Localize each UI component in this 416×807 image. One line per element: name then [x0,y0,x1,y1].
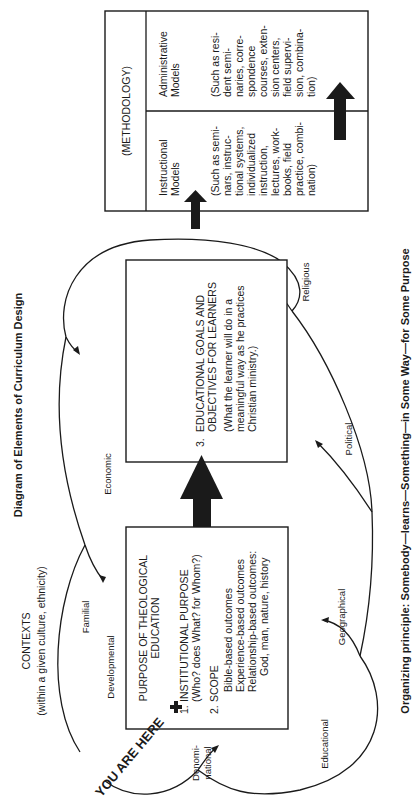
svg-text:Relationship-based outcomes:: Relationship-based outcomes: [246,551,258,692]
svg-text:spondence: spondence [245,45,257,97]
context-label-economic: Economic [102,453,113,495]
svg-text:tional systems,: tional systems, [233,127,245,196]
svg-text:nars, instruc-: nars, instruc- [221,135,233,196]
svg-text:God, man, nature, history: God, man, nature, history [258,557,270,676]
svg-text:tion): tion) [305,77,317,97]
svg-text:books, field: books, field [281,143,293,196]
svg-text:national: national [202,746,213,779]
svg-text:Models: Models [169,162,181,196]
svg-text:INSTITUTIONAL PURPOSE: INSTITUTIONAL PURPOSE [178,569,190,702]
svg-text:(Such as semi-: (Such as semi- [209,125,221,196]
svg-text:Models: Models [169,63,181,97]
svg-text:practice, combi-: practice, combi- [293,121,305,196]
svg-text:dent semi-: dent semi- [221,47,233,97]
educational-goals-box: 3. EDUCATIONAL GOALS AND OBJECTIVES FOR … [126,260,287,462]
context-label-political: Political [343,423,354,456]
svg-text:3.: 3. [194,438,206,447]
svg-text:(Who? does What? for Whom?): (Who? does What? for Whom?) [190,554,202,702]
context-label-familial: Familial [80,601,91,634]
svg-text:courses, exten-: courses, exten- [257,25,269,97]
svg-text:instruction,: instruction, [257,145,269,196]
purpose-box: PURPOSE OF THEOLOGICAL EDUCATION 1. INST… [126,527,288,729]
svg-text:PURPOSE OF THEOLOGICAL: PURPOSE OF THEOLOGICAL [137,555,149,701]
svg-text:EDUCATIONAL GOALS AND: EDUCATIONAL GOALS AND [194,294,206,432]
curriculum-design-diagram: Diagram of Elements of Curriculum Design… [0,0,416,807]
svg-text:Denomi-: Denomi- [190,745,201,781]
svg-text:OBJECTIVES FOR LEARNERS: OBJECTIVES FOR LEARNERS [206,282,218,432]
svg-text:Christian ministry.): Christian ministry.) [246,346,258,432]
context-label-geographical: Geographical [336,589,347,646]
svg-text:Bible-based outcomes: Bible-based outcomes [222,588,234,692]
svg-text:Instructional: Instructional [157,139,169,196]
svg-text:Experience-based outcomes: Experience-based outcomes [234,559,246,692]
organizing-principle: Organizing principle: Somebody—learns—So… [399,248,411,713]
svg-text:CONTEXTS: CONTEXTS [20,612,32,669]
svg-text:(Such as resi-: (Such as resi- [209,32,221,97]
arrow-purpose-to-goals-icon [180,455,223,533]
svg-text:EDUCATION: EDUCATION [149,597,161,658]
context-label-developmental: Developmental [105,635,116,698]
methodology-box: (METHODOLOGY) Instructional Models (Such… [105,11,368,211]
methodology-heading: (METHODOLOGY) [120,66,132,156]
svg-text:SCOPE: SCOPE [208,665,220,702]
diagram-title: Diagram of Elements of Curriculum Design [12,293,24,518]
context-label-religious: Religious [300,262,311,301]
svg-text:Administrative: Administrative [157,31,169,97]
svg-text:naries, corre-: naries, corre- [233,35,245,97]
context-label-denominational: Denomi- national [190,745,213,781]
svg-text:(within a given culture, ethni: (within a given culture, ethnicity) [35,566,47,715]
contexts-heading: CONTEXTS (within a given culture, ethnic… [20,566,47,715]
context-label-educational: Educational [319,719,330,769]
svg-text:2.: 2. [208,705,220,714]
svg-text:meaningful way as he practices: meaningful way as he practices [234,286,246,433]
svg-text:lectures, work-: lectures, work- [269,127,281,196]
svg-text:field supervi-: field supervi- [281,37,293,97]
svg-text:individualized: individualized [245,133,257,196]
svg-text:nation): nation) [305,164,317,196]
svg-text:sion centers,: sion centers, [269,37,281,97]
svg-text:(What the learner will do in a: (What the learner will do in a [222,299,234,432]
svg-text:sion, combina-: sion, combina- [293,28,305,97]
